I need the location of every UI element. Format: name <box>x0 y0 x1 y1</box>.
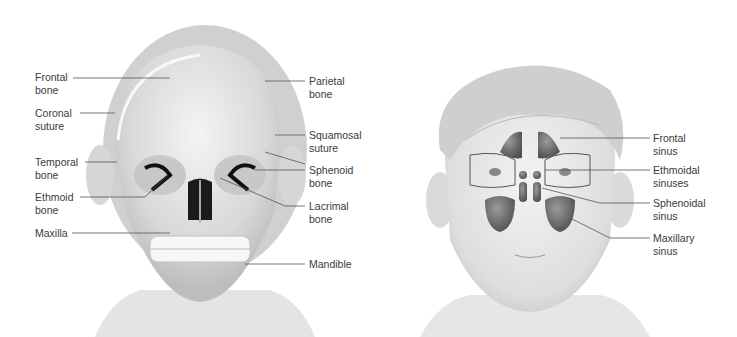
label-frontal-sinus: Frontalsinus <box>653 132 686 157</box>
skull-illustration <box>86 25 315 337</box>
label-temporal-bone: Temporalbone <box>35 156 78 181</box>
label-ethmoidal-sinuses: Ethmoidalsinuses <box>653 164 700 189</box>
label-sphenoid-bone: Sphenoidbone <box>309 164 353 189</box>
label-maxilla: Maxilla <box>35 227 68 240</box>
illustration-canvas <box>0 0 737 337</box>
label-squamosal-suture: Squamosalsuture <box>309 129 362 154</box>
face-illustration <box>420 66 650 337</box>
label-mandible: Mandible <box>309 258 352 271</box>
label-parietal-bone: Parietalbone <box>309 75 345 100</box>
label-sphenoidal-sinus: Sphenoidalsinus <box>653 197 706 222</box>
label-maxillary-sinus: Maxillarysinus <box>653 232 694 257</box>
label-coronal-suture: Coronalsuture <box>35 107 72 132</box>
label-ethmoid-bone: Ethmoidbone <box>35 191 74 216</box>
label-lacrimal-bone: Lacrimalbone <box>309 200 349 225</box>
label-frontal-bone: Frontalbone <box>35 71 68 96</box>
